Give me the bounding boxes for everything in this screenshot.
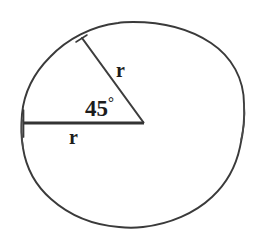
geometry-figure: 45° r r [0, 0, 263, 237]
circle-outline-wobble-right [241, 104, 244, 140]
angle-value: 45 [85, 96, 108, 121]
figure-svg [0, 0, 263, 237]
degree-symbol-icon: ° [108, 94, 114, 110]
circle-outline [21, 22, 244, 228]
radius-label-lower: r [69, 127, 78, 147]
angle-label: 45° [85, 97, 114, 120]
radius-label-upper: r [116, 60, 125, 80]
